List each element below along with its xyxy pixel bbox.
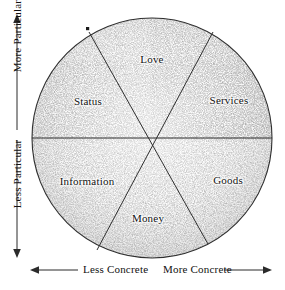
left-arrow-icon [30,266,39,274]
resource-wheel-figure: Love Services Goods Money Information St… [0,0,285,290]
vertical-axis-label-less-particular: Less Particular [11,140,23,209]
down-arrow-icon [13,249,21,258]
vertical-axis: More Particular Less Particular [0,0,34,268]
sector-label-information: Information [60,175,115,187]
vertical-axis-label-more-particular: More Particular [11,0,23,72]
wheel-diagram [0,0,285,290]
horizontal-axis-label-less-concrete: Less Concrete [83,263,148,275]
horizontal-axis: Less Concrete More Concrete [26,262,276,284]
sector-label-goods: Goods [213,174,243,186]
tick-dot-marker [86,27,89,30]
right-arrow-icon [263,266,272,274]
horizontal-axis-label-more-concrete: More Concrete [163,263,232,275]
sector-label-status: Status [74,95,102,107]
sector-label-love: Love [140,53,163,65]
sector-label-money: Money [132,212,164,224]
horizontal-axis-rules [26,262,276,284]
sector-label-services: Services [210,94,249,106]
